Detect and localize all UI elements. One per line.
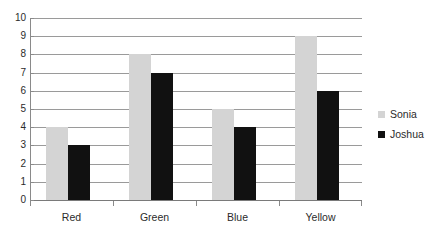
y-tick-mark-8 [30, 54, 34, 55]
legend-label-sonia: Sonia [390, 109, 417, 120]
x-tick-mark-4 [361, 201, 362, 206]
bar-green-joshua [151, 73, 173, 200]
chart-legend: SoniaJoshua [378, 104, 436, 144]
y-tick-label-6: 6 [2, 86, 26, 96]
x-tick-mark-2 [196, 201, 197, 206]
legend-item-joshua[interactable]: Joshua [378, 124, 436, 144]
y-tick-label-4: 4 [2, 122, 26, 132]
bar-chart: 109876543210 RedGreenBlueYellow SoniaJos… [0, 0, 436, 226]
bar-red-joshua [68, 145, 90, 200]
bar-red-sonia [46, 127, 68, 200]
x-tick-label-blue: Blue [196, 211, 279, 223]
y-tick-label-3: 3 [2, 140, 26, 150]
bar-yellow-joshua [317, 91, 339, 200]
y-tick-label-10: 10 [2, 13, 26, 23]
y-tick-mark-3 [30, 145, 34, 146]
legend-label-joshua: Joshua [390, 129, 424, 140]
y-tick-label-2: 2 [2, 159, 26, 169]
joshua-swatch-icon [378, 131, 385, 138]
bar-blue-sonia [212, 109, 234, 200]
y-tick-mark-2 [30, 164, 34, 165]
y-tick-label-0: 0 [2, 195, 26, 205]
bar-yellow-sonia [295, 36, 317, 200]
y-tick-label-5: 5 [2, 104, 26, 114]
y-tick-label-7: 7 [2, 68, 26, 78]
bar-series-group [30, 18, 362, 200]
y-tick-label-8: 8 [2, 49, 26, 59]
y-axis-labels: 109876543210 [0, 18, 26, 200]
x-tick-mark-3 [279, 201, 280, 206]
plot-area [30, 18, 362, 200]
x-tick-label-green: Green [113, 211, 196, 223]
y-tick-mark-6 [30, 91, 34, 92]
sonia-swatch-icon [378, 111, 385, 118]
x-tick-label-red: Red [30, 211, 113, 223]
x-tick-label-yellow: Yellow [279, 211, 362, 223]
y-tick-mark-1 [30, 182, 34, 183]
x-tick-marks [30, 201, 362, 207]
y-tick-label-1: 1 [2, 177, 26, 187]
x-axis: RedGreenBlueYellow [30, 201, 362, 225]
legend-item-sonia[interactable]: Sonia [378, 104, 436, 124]
y-tick-mark-9 [30, 36, 34, 37]
bar-blue-joshua [234, 127, 256, 200]
chart-title [0, 0, 360, 2]
y-tick-mark-5 [30, 109, 34, 110]
x-tick-mark-0 [30, 201, 31, 206]
bar-green-sonia [129, 54, 151, 200]
y-tick-mark-10 [30, 18, 34, 19]
y-tick-mark-0 [30, 200, 34, 201]
y-tick-label-9: 9 [2, 31, 26, 41]
y-tick-mark-4 [30, 127, 34, 128]
x-tick-mark-1 [113, 201, 114, 206]
y-tick-mark-7 [30, 73, 34, 74]
